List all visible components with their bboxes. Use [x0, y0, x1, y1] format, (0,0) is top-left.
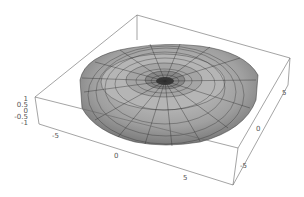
svg-text:-5: -5	[52, 132, 59, 140]
svg-text:-5: -5	[240, 162, 247, 170]
surface-plot: 1 0.5 0 -0.5 -1 -5 0 5 5 0 -5	[0, 0, 304, 197]
svg-text:5: 5	[183, 174, 187, 182]
z-axis-labels: 1 0.5 0 -0.5 -1	[14, 95, 28, 127]
svg-text:0: 0	[114, 152, 118, 160]
svg-text:5: 5	[282, 89, 286, 97]
svg-text:0: 0	[256, 125, 260, 133]
svg-text:-1: -1	[21, 119, 28, 127]
